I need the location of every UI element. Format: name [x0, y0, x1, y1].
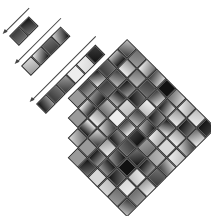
arrowhead-icon — [28, 97, 34, 103]
patch-diagram — [0, 0, 211, 216]
arrowhead-icon — [13, 59, 19, 65]
arrowhead-icon — [1, 29, 7, 35]
